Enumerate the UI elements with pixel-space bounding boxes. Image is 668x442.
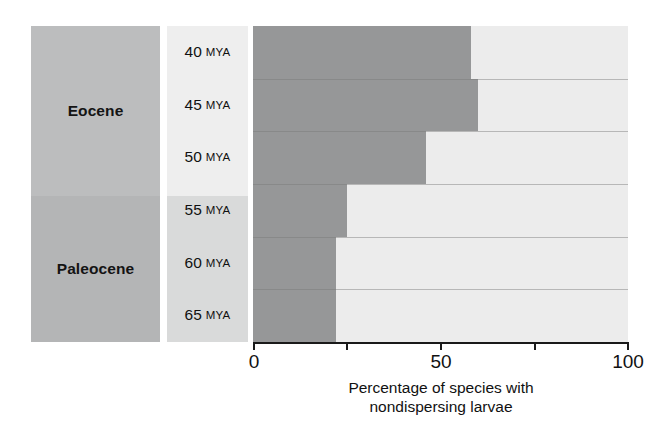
x-axis-tick-25 xyxy=(346,342,348,350)
epoch-block-eocene: Eocene xyxy=(31,26,160,196)
row-separator xyxy=(253,131,628,132)
figure-root: Eocene Paleocene 40 MYA 45 MYA 50 MYA 55… xyxy=(0,0,668,442)
row-separator xyxy=(253,289,628,290)
row-separator xyxy=(253,237,628,238)
x-axis-tick-75 xyxy=(534,342,536,350)
bar-segment-nondispersing xyxy=(253,289,336,342)
age-value-65: 65 xyxy=(185,306,202,324)
bar-row xyxy=(253,79,628,132)
age-value-55: 55 xyxy=(185,201,202,219)
x-axis-caption-line2: nondispersing larvae xyxy=(253,397,629,416)
age-unit-45: MYA xyxy=(206,99,231,111)
bar-segment-nondispersing xyxy=(253,26,471,79)
epoch-label-paleocene: Paleocene xyxy=(57,260,135,278)
age-label-60: 60 MYA xyxy=(167,236,248,289)
age-value-40: 40 xyxy=(185,43,202,61)
bar-row xyxy=(253,131,628,184)
bar-segment-nondispersing xyxy=(253,79,478,132)
age-label-55: 55 MYA xyxy=(167,184,248,237)
x-axis-caption: Percentage of species with nondispersing… xyxy=(253,378,629,416)
age-value-60: 60 xyxy=(185,254,202,272)
bar-row xyxy=(253,289,628,342)
age-unit-50: MYA xyxy=(206,151,231,163)
x-axis-tick-0 xyxy=(253,342,255,350)
age-unit-65: MYA xyxy=(206,309,231,321)
age-label-65: 65 MYA xyxy=(167,289,248,342)
bar-row xyxy=(253,184,628,237)
epoch-label-eocene: Eocene xyxy=(68,102,124,120)
x-axis-label-0: 0 xyxy=(249,351,260,373)
age-unit-60: MYA xyxy=(206,257,231,269)
x-axis-tick-100 xyxy=(627,342,629,350)
age-value-45: 45 xyxy=(185,96,202,114)
x-axis-caption-line1: Percentage of species with xyxy=(253,378,629,397)
bar-segment-nondispersing xyxy=(253,184,347,237)
row-separator xyxy=(253,184,628,185)
age-label-40: 40 MYA xyxy=(167,26,248,79)
epoch-block-paleocene: Paleocene xyxy=(31,196,160,342)
bar-segment-nondispersing xyxy=(253,237,336,290)
age-label-45: 45 MYA xyxy=(167,79,248,132)
epoch-column: Eocene Paleocene xyxy=(31,26,160,342)
bar-row xyxy=(253,237,628,290)
x-axis-tick-50 xyxy=(440,342,442,350)
bar-segment-nondispersing xyxy=(253,131,426,184)
age-label-50: 50 MYA xyxy=(167,131,248,184)
x-axis-label-100: 100 xyxy=(612,351,644,373)
age-unit-40: MYA xyxy=(206,46,231,58)
age-value-50: 50 xyxy=(185,148,202,166)
bar-row xyxy=(253,26,628,79)
age-column: 40 MYA 45 MYA 50 MYA 55 MYA 60 MYA 65 MY… xyxy=(167,26,248,342)
bar-chart-plot-area xyxy=(253,26,628,342)
row-separator xyxy=(253,79,628,80)
age-unit-55: MYA xyxy=(206,204,231,216)
x-axis-label-50: 50 xyxy=(430,351,451,373)
